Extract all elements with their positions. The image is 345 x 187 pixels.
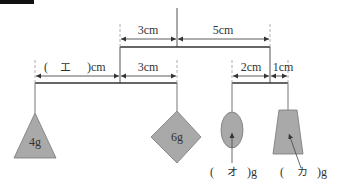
- diamond-weight-label: 6g: [171, 130, 183, 144]
- corner-marker: [0, 0, 34, 4]
- blank-ka-label: カ: [297, 166, 308, 179]
- blank-e-label: エ: [60, 61, 71, 74]
- balance-diagram: 3cm 5cm ( エ )cm 3cm 2cm 1cm 4g 6g ( オ )g…: [0, 0, 345, 187]
- trapezoid-label-close-unit: )g: [317, 165, 327, 179]
- lower-left-right-dimension-label: 3cm: [138, 60, 159, 74]
- lower-right-right-dimension-label: 1cm: [273, 60, 294, 74]
- upper-left-dimension-label: 3cm: [138, 23, 159, 37]
- ellipse-label-close-unit: )g: [247, 165, 257, 179]
- trapezoid-label-open-paren: (: [280, 165, 284, 179]
- blank-o-label: オ: [227, 166, 238, 179]
- trapezoid-weight: [273, 110, 303, 154]
- lower-left-dimension-open-paren: (: [44, 60, 48, 74]
- lower-right-left-dimension-label: 2cm: [241, 60, 262, 74]
- lower-left-dimension-close-unit: )cm: [87, 60, 106, 74]
- ellipse-label-open-paren: (: [210, 165, 214, 179]
- triangle-weight-label: 4g: [29, 135, 41, 149]
- upper-right-dimension-label: 5cm: [213, 23, 234, 37]
